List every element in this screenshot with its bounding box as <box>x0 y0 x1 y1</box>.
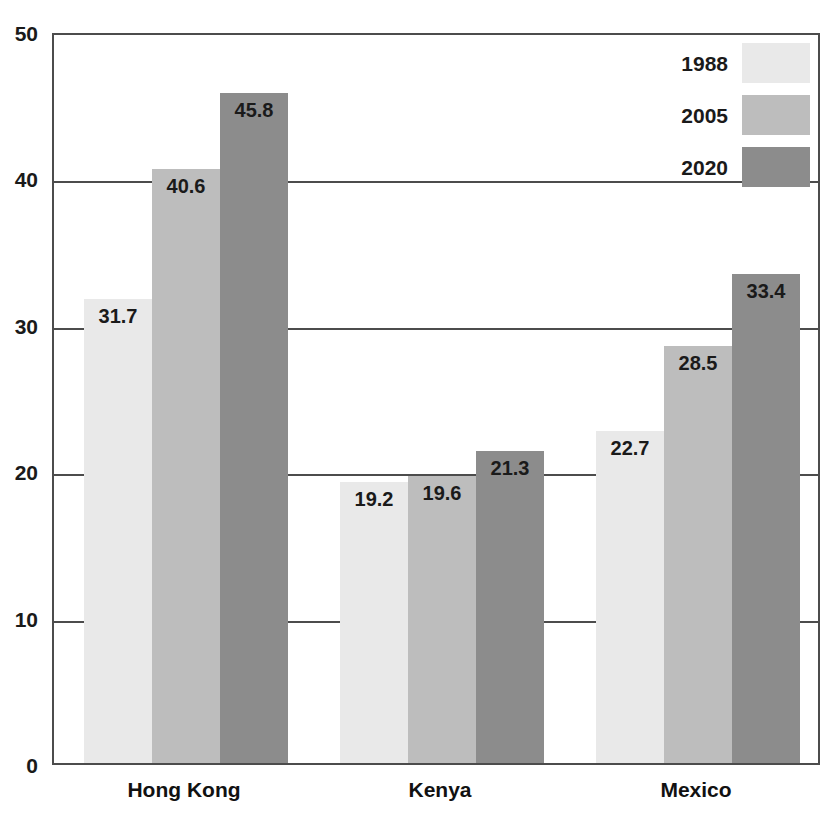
bar: 22.7 <box>596 431 664 763</box>
bar-value-label: 28.5 <box>679 352 718 375</box>
x-axis-category-label: Kenya <box>408 778 471 802</box>
bar-value-label: 31.7 <box>99 305 138 328</box>
bar-value-label: 40.6 <box>167 175 206 198</box>
bar-value-label: 22.7 <box>611 437 650 460</box>
plot-area: 31.740.645.819.219.621.322.728.533.4 198… <box>52 33 820 765</box>
legend-swatch <box>742 43 810 83</box>
legend-label: 2005 <box>681 105 728 126</box>
y-axis-tick-label: 10 <box>15 608 38 629</box>
bar-value-label: 21.3 <box>491 457 530 480</box>
x-axis-category-label: Hong Kong <box>127 778 240 802</box>
bar-value-label: 33.4 <box>747 280 786 303</box>
legend-swatch <box>742 95 810 135</box>
y-axis-tick-label: 30 <box>15 315 38 336</box>
x-axis: Hong KongKenyaMexico <box>52 772 820 813</box>
bar-value-label: 19.2 <box>355 488 394 511</box>
y-axis-tick-label: 20 <box>15 462 38 483</box>
legend-label: 1988 <box>681 53 728 74</box>
legend-swatch <box>742 147 810 187</box>
chart-title <box>0 0 829 3</box>
bar: 28.5 <box>664 346 732 763</box>
y-axis-tick-label: 50 <box>15 23 38 44</box>
bar: 21.3 <box>476 451 544 763</box>
bar-value-label: 19.6 <box>423 482 462 505</box>
y-axis: 01020304050 <box>0 33 44 765</box>
legend-label: 2020 <box>681 157 728 178</box>
bar-value-label: 45.8 <box>235 99 274 122</box>
y-axis-tick-label: 0 <box>26 755 38 776</box>
bar: 40.6 <box>152 169 220 763</box>
x-axis-category-label: Mexico <box>660 778 731 802</box>
legend-item-1988: 1988 <box>681 43 810 83</box>
y-axis-tick-label: 40 <box>15 169 38 190</box>
legend-item-2005: 2005 <box>681 95 810 135</box>
bar: 45.8 <box>220 93 288 764</box>
chart-legend: 198820052020 <box>681 43 810 187</box>
bar: 33.4 <box>732 274 800 763</box>
bar: 19.2 <box>340 482 408 763</box>
bar: 31.7 <box>84 299 152 763</box>
bar: 19.6 <box>408 476 476 763</box>
legend-item-2020: 2020 <box>681 147 810 187</box>
